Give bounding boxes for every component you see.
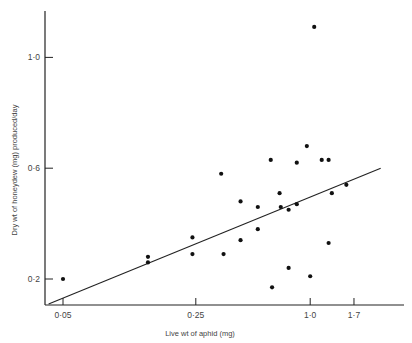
data-point: [320, 158, 324, 162]
data-point: [190, 252, 194, 256]
data-point: [146, 255, 150, 259]
y-tick-label: 0·6: [28, 163, 41, 173]
data-point: [279, 205, 283, 209]
x-tick-label: 1·7: [348, 310, 361, 320]
regression-line: [49, 168, 381, 304]
y-tick-label: 1·0: [28, 52, 41, 62]
data-point: [256, 205, 260, 209]
data-point: [327, 158, 331, 162]
data-point: [221, 252, 225, 256]
y-axis-title: Dry wt of honeydew (mg) produced/day: [10, 104, 19, 235]
data-point: [287, 208, 291, 212]
scatter-chart: 0·20·61·0 0·050·251·01·7 Live wt of aphi…: [0, 0, 412, 343]
x-axis-title: Live wt of aphid (mg): [165, 329, 235, 338]
data-point: [146, 260, 150, 264]
data-points: [61, 25, 349, 290]
data-point: [308, 274, 312, 278]
data-point: [330, 191, 334, 195]
data-point: [305, 144, 309, 148]
data-point: [256, 227, 260, 231]
data-point: [238, 199, 242, 203]
y-ticks: 0·20·61·0: [28, 52, 53, 284]
x-ticks: 0·050·251·01·7: [54, 298, 360, 320]
data-point: [219, 172, 223, 176]
data-point: [61, 277, 65, 281]
y-tick-label: 0·2: [28, 274, 41, 284]
data-point: [327, 241, 331, 245]
data-point: [287, 266, 291, 270]
data-point: [269, 158, 273, 162]
data-point: [277, 191, 281, 195]
data-point: [238, 238, 242, 242]
data-point: [190, 235, 194, 239]
fit-line: [49, 168, 381, 304]
x-tick-label: 0·05: [54, 310, 71, 320]
data-point: [312, 25, 316, 29]
data-point: [270, 285, 274, 289]
data-point: [295, 202, 299, 206]
x-tick-label: 0·25: [187, 310, 204, 320]
axes: [45, 11, 404, 305]
data-point: [295, 161, 299, 165]
data-point: [344, 183, 348, 187]
x-tick-label: 1·0: [304, 310, 317, 320]
